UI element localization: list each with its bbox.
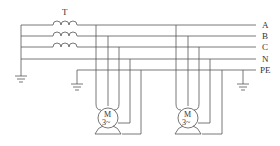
phase-a-line: [21, 21, 256, 25]
phase-c-line: [21, 43, 256, 47]
motor-1-label-phase: 3~: [102, 118, 111, 127]
bus-label-n: N: [262, 54, 269, 64]
bus-label-c: C: [262, 42, 268, 52]
motor-2: M 3~: [175, 25, 222, 134]
transformer-label: T: [62, 7, 68, 17]
phase-b-line: [21, 32, 256, 36]
ground-icon: [237, 84, 249, 90]
ground-icon: [71, 84, 83, 90]
bus-label-a: A: [262, 20, 269, 30]
bus-label-b: B: [262, 31, 268, 41]
ground-icon: [15, 76, 27, 82]
schematic-canvas: T A B C N PE: [0, 0, 280, 146]
schematic-svg: T A B C N PE: [0, 0, 280, 146]
bus-label-pe: PE: [260, 65, 271, 75]
motor-2-label-phase: 3~: [182, 118, 191, 127]
motor-1: M 3~: [95, 25, 141, 134]
